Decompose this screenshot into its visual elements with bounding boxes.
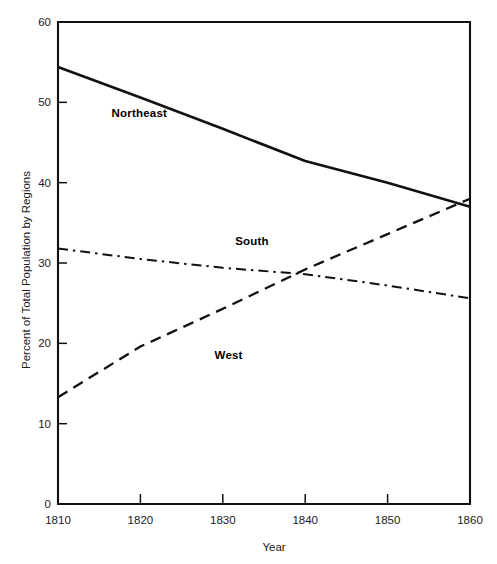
y-tick-label: 10 xyxy=(38,418,51,430)
x-axis-ticks: 181018201830184018501860 xyxy=(45,494,483,526)
x-tick-label: 1860 xyxy=(457,514,483,526)
plot-frame xyxy=(58,22,470,504)
x-tick-label: 1850 xyxy=(375,514,401,526)
series-label-west: West xyxy=(215,349,243,361)
x-axis-title: Year xyxy=(262,541,285,553)
series-line-south xyxy=(58,249,470,299)
axis-frame-path xyxy=(58,22,470,504)
y-tick-label: 0 xyxy=(45,498,51,510)
y-tick-label: 50 xyxy=(38,96,51,108)
x-tick-label: 1820 xyxy=(128,514,154,526)
series-line-northeast xyxy=(58,67,470,207)
series-label-northeast: Northeast xyxy=(112,107,167,119)
x-tick-label: 1810 xyxy=(45,514,71,526)
x-tick-label: 1840 xyxy=(292,514,318,526)
series-label-south: South xyxy=(235,235,269,247)
y-axis-ticks: 0102030405060 xyxy=(38,16,67,510)
series-line-west xyxy=(58,199,470,397)
y-tick-label: 20 xyxy=(38,337,51,349)
y-tick-label: 60 xyxy=(38,16,51,28)
chart-figure: 0102030405060 181018201830184018501860 N… xyxy=(0,0,497,564)
x-tick-label: 1830 xyxy=(210,514,236,526)
y-tick-label: 30 xyxy=(38,257,51,269)
y-axis-title: Percent of Total Population by Regions xyxy=(20,171,32,369)
population-by-region-line-chart: 0102030405060 181018201830184018501860 N… xyxy=(0,0,497,564)
y-tick-label: 40 xyxy=(38,177,51,189)
